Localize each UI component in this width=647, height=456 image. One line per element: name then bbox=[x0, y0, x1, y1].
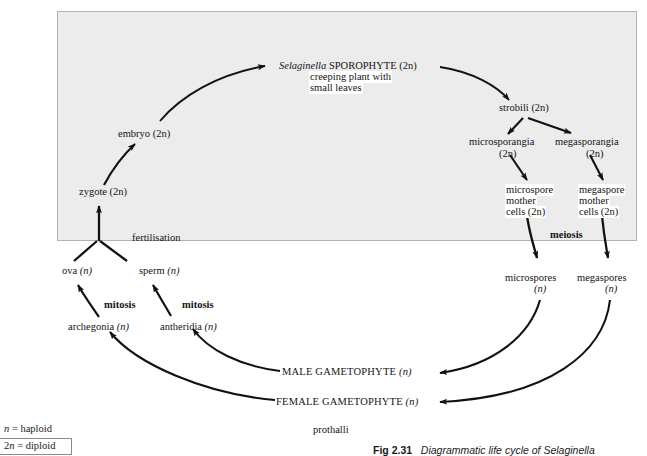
arrow-male-gametophyte-to-antheridia bbox=[193, 329, 280, 371]
arrow-embryo-to-sporophyte bbox=[160, 66, 265, 121]
arrow-megaspores-to-female-gametophyte bbox=[440, 300, 610, 402]
sperm-ploidy: (n) bbox=[167, 265, 179, 276]
caption-number: Fig 2.31 bbox=[373, 444, 412, 456]
process-meiosis: meiosis bbox=[549, 229, 584, 241]
node-microsporangia-line1: microsporangia bbox=[468, 136, 535, 148]
process-mitosis-left: mitosis bbox=[104, 299, 136, 311]
legend-haploid: n = haploid bbox=[4, 423, 52, 434]
male-gametophyte-ploidy: (n) bbox=[399, 366, 412, 377]
arrow-microspores-to-male-gametophyte bbox=[440, 300, 540, 373]
arrow-mitosis-archegonia-to-ova bbox=[78, 285, 99, 317]
arrow-meiosis-microspores bbox=[527, 216, 537, 258]
node-megaspore-mother-cells-line3: cells (2n) bbox=[578, 206, 619, 218]
node-embryo: embryo (2n) bbox=[117, 128, 171, 140]
node-ova: ova (n) bbox=[62, 265, 92, 277]
node-microsporangia-line2: (2n) bbox=[498, 148, 518, 160]
prothalli-label: prothalli bbox=[313, 424, 349, 436]
node-female-gametophyte: FEMALE GAMETOPHYTE (n) bbox=[276, 396, 418, 408]
legend-diploid-text: = diploid bbox=[15, 440, 56, 451]
arrow-zygote-to-embryo bbox=[104, 144, 135, 185]
line-sperm-to-fertilisation bbox=[100, 241, 127, 261]
node-megaspores-line2: (n) bbox=[605, 283, 617, 295]
archegonia-ploidy: (n) bbox=[117, 321, 129, 332]
line-ova-to-fertilisation bbox=[74, 241, 97, 261]
node-microspores-line1: microspores bbox=[505, 272, 556, 284]
node-megasporangia-line1: megasporangia bbox=[554, 136, 620, 148]
antheridia-label: antheridia bbox=[160, 321, 205, 332]
female-gametophyte-ploidy: (n) bbox=[406, 396, 419, 407]
node-antheridia: antheridia (n) bbox=[160, 321, 217, 333]
legend-haploid-text: = haploid bbox=[9, 423, 52, 434]
node-megaspores-line1: megaspores bbox=[577, 272, 627, 284]
node-microspore-mother-cells-line1: microspore bbox=[505, 184, 554, 196]
male-gametophyte-label: MALE GAMETOPHYTE bbox=[282, 366, 399, 377]
node-microspores-line2: (n) bbox=[534, 283, 546, 295]
sporophyte-genus: Selaginella bbox=[279, 60, 326, 71]
sporophyte-description-line2: small leaves bbox=[309, 82, 363, 94]
arrow-strobili-to-microsporangia bbox=[508, 118, 523, 134]
node-megaspore-mother-cells-line1: megaspore bbox=[578, 184, 625, 196]
arrow-strobili-to-megasporangia bbox=[528, 118, 571, 133]
node-zygote: zygote (2n) bbox=[78, 186, 128, 198]
figure-caption: Fig 2.31 Diagrammatic life cycle of Sela… bbox=[373, 444, 595, 456]
node-megasporangia-line2: (2n) bbox=[585, 148, 605, 160]
node-strobili: strobili (2n) bbox=[498, 102, 550, 114]
arrow-mitosis-antheridia-to-sperm bbox=[153, 285, 171, 316]
node-microspore-mother-cells-line2: mother bbox=[505, 195, 537, 207]
process-mitosis-right: mitosis bbox=[182, 299, 214, 311]
ova-ploidy: (n) bbox=[80, 265, 92, 276]
archegonia-label: archegonia bbox=[68, 321, 117, 332]
node-sporophyte: Selaginella SPOROPHYTE (2n) bbox=[278, 60, 418, 72]
sporophyte-title: SPOROPHYTE (2n) bbox=[326, 60, 416, 71]
ova-label: ova bbox=[62, 265, 80, 276]
node-male-gametophyte: MALE GAMETOPHYTE (n) bbox=[282, 366, 412, 378]
figure-life-cycle-selaginella: Selaginella SPOROPHYTE (2n) creeping pla… bbox=[0, 0, 647, 456]
node-megaspore-mother-cells-line2: mother bbox=[578, 195, 610, 207]
arrow-meiosis-megaspores bbox=[602, 216, 608, 258]
arrow-sporophyte-to-strobili bbox=[440, 67, 509, 100]
sperm-label: sperm bbox=[139, 265, 167, 276]
node-microspore-mother-cells-line3: cells (2n) bbox=[505, 206, 546, 218]
process-fertilisation: fertilisation bbox=[131, 232, 181, 244]
node-sperm: sperm (n) bbox=[139, 265, 180, 277]
node-archegonia: archegonia (n) bbox=[68, 321, 129, 333]
legend-diploid: 2n = diploid bbox=[4, 440, 55, 451]
antheridia-ploidy: (n) bbox=[205, 321, 217, 332]
caption-text: Diagrammatic life cycle of Selaginella bbox=[412, 444, 595, 456]
female-gametophyte-label: FEMALE GAMETOPHYTE bbox=[276, 396, 406, 407]
